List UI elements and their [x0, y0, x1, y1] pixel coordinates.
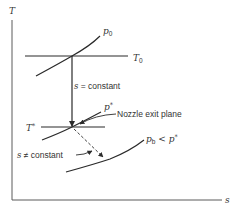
- t0-label: T0: [133, 53, 143, 64]
- p0-isobar: p0: [36, 26, 113, 76]
- pstar-label: p*: [104, 101, 114, 112]
- nozzle-exit-leader: [80, 114, 116, 124]
- t0-isotherm: T0: [25, 53, 143, 64]
- nozzle-exit-annotation: Nozzle exit plane: [80, 109, 182, 124]
- isentropic-label: s = constant: [74, 81, 121, 91]
- nozzle-exit-label: Nozzle exit plane: [117, 109, 182, 119]
- axes: T s: [9, 6, 230, 205]
- non-isentropic-expansion: s ≠ constant: [17, 129, 103, 160]
- non-isentropic-label: s ≠ constant: [17, 150, 64, 160]
- p0-label: p0: [103, 26, 113, 37]
- tstar-isotherm: T*: [26, 122, 105, 133]
- tstar-label: T*: [26, 122, 36, 133]
- isentropic-expansion: s = constant: [72, 56, 121, 126]
- non-isentropic-leader: [76, 151, 92, 155]
- x-axis-label: s: [225, 195, 230, 205]
- pb-curve: [66, 140, 144, 172]
- ts-diagram: T s T0 p0 s = constant T* p*: [0, 0, 237, 209]
- pb-isobar: pb < p*: [66, 133, 178, 172]
- y-axis-label: T: [9, 6, 16, 16]
- pb-label: pb < p*: [146, 133, 178, 145]
- pstar-isobar: p*: [42, 101, 114, 140]
